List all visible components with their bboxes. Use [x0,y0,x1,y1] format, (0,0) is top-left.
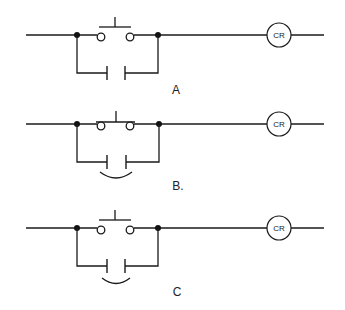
circuit-a-label: A [172,83,180,97]
circuit-b: CR B. [26,111,324,193]
pushbutton-a-icon [97,17,134,41]
ladder-diagram: CR A CR B. [0,0,345,310]
coil-b-icon: CR [267,112,291,136]
coil-c-icon: CR [267,216,291,240]
mechanical-link-c-icon [102,278,130,284]
circuit-b-label: B. [172,179,183,193]
circuit-c: CR C [26,210,324,299]
holding-contact-c-icon [102,259,130,284]
holding-contact-a-icon [107,66,125,80]
coil-a-icon: CR [267,23,291,47]
coil-a-label: CR [273,31,285,40]
mechanical-link-b-icon [100,172,132,178]
circuit-a: CR A [26,17,324,97]
pushbutton-b-icon [96,111,135,130]
pushbutton-c-icon [97,210,134,234]
coil-c-label: CR [273,224,285,233]
coil-b-label: CR [273,120,285,129]
circuit-c-label: C [173,285,182,299]
holding-contact-b-icon [100,155,132,178]
